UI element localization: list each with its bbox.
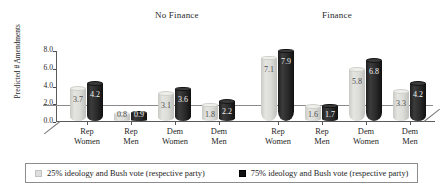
bar-75-percent: 7.9 <box>278 51 294 121</box>
x-axis-label-dem-men: DemMen <box>383 127 437 147</box>
plot-area: 3.74.20.80.93.13.61.82.27.17.91.61.75.86… <box>56 34 435 122</box>
chart-figure: No Finance Finance Predicted # Amendment… <box>0 0 443 193</box>
x-label-line1: Dem <box>383 127 437 137</box>
y-axis-label-line1: Predicted # <box>13 65 22 98</box>
bar-75-percent: 4.2 <box>410 84 426 121</box>
x-label-line2: Men <box>192 137 246 147</box>
x-tick-mark <box>219 121 220 125</box>
bar-group: 5.86.8 <box>349 34 389 122</box>
bar-group: 3.74.2 <box>70 34 110 122</box>
bar-value-label: 4.2 <box>407 90 429 99</box>
y-tick-label: 6.0 <box>44 63 54 72</box>
x-tick-mark <box>87 121 88 125</box>
bar-value-label: 6.8 <box>363 67 385 76</box>
bar-value-label: 1.7 <box>319 110 341 119</box>
bar-value-label: 3.3 <box>390 99 412 108</box>
bar-25-percent: 5.8 <box>349 70 365 121</box>
bar-value-label: 5.8 <box>346 77 368 86</box>
bar-value-label: 3.6 <box>172 95 194 104</box>
bar-75-percent: 6.8 <box>366 61 382 121</box>
bar-25-percent: 7.1 <box>261 58 277 121</box>
y-axis-ticks: 0.02.04.06.08.0 <box>31 50 53 122</box>
bar-75-percent: 2.2 <box>219 101 235 121</box>
y-tick-label: 8.0 <box>44 45 54 54</box>
panel-title-finance: Finance <box>322 10 352 20</box>
y-tick-label: 4.0 <box>44 81 54 90</box>
legend-label-75: 75% ideology and Bush vote (respective p… <box>251 169 409 178</box>
bar-group: 1.82.2 <box>202 34 242 122</box>
x-tick-mark <box>175 121 176 125</box>
bar-group: 1.61.7 <box>305 34 345 122</box>
bar-group: 7.17.9 <box>261 34 301 122</box>
bar-value-label: 2.2 <box>216 107 238 116</box>
x-tick-mark <box>366 121 367 125</box>
bar-75-percent: 0.9 <box>131 113 147 121</box>
bar-75-percent: 4.2 <box>87 84 103 121</box>
legend-item-25: 25% ideology and Bush vote (respective p… <box>35 169 205 178</box>
bar-75-percent: 1.7 <box>322 106 338 121</box>
legend-swatch-light-icon <box>35 170 42 177</box>
bar-group: 0.80.9 <box>114 34 154 122</box>
x-tick-mark <box>322 121 323 125</box>
bar-group: 3.13.6 <box>158 34 198 122</box>
panel-title-no-finance: No Finance <box>155 10 199 20</box>
bar-value-label: 7.9 <box>275 57 297 66</box>
y-axis-label: Predicted # Amendments <box>14 23 22 99</box>
x-tick-mark <box>131 121 132 125</box>
x-axis-label-dem-men: DemMen <box>192 127 246 147</box>
y-axis-label-line2: Amendments <box>13 24 22 63</box>
x-tick-mark <box>410 121 411 125</box>
chart-legend: 25% ideology and Bush vote (respective p… <box>25 163 418 183</box>
legend-item-75: 75% ideology and Bush vote (respective p… <box>239 169 409 178</box>
bar-cylinder <box>175 89 191 121</box>
y-tick-label: 0.0 <box>44 116 54 125</box>
x-tick-mark <box>278 121 279 125</box>
bar-value-label: 7.1 <box>258 65 280 74</box>
legend-swatch-dark-icon <box>239 170 246 177</box>
bar-75-percent: 3.6 <box>175 89 191 121</box>
bar-value-label: 4.2 <box>84 90 106 99</box>
bar-value-label: 0.9 <box>128 110 150 119</box>
legend-label-25: 25% ideology and Bush vote (respective p… <box>47 169 205 178</box>
x-label-line1: Dem <box>192 127 246 137</box>
x-label-line2: Men <box>383 137 437 147</box>
bar-group: 3.34.2 <box>393 34 433 122</box>
